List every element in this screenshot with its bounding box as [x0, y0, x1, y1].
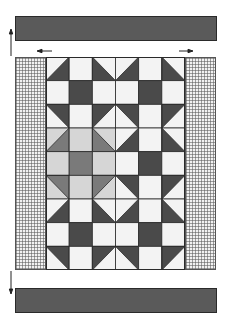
quilt-cell — [69, 152, 92, 176]
quilt-cell — [139, 57, 162, 81]
quilt-cell — [92, 57, 115, 81]
quilt-cell — [92, 104, 115, 128]
left-checkered-border — [15, 57, 46, 270]
quilt-cell — [46, 152, 69, 176]
quilt-cell — [139, 246, 162, 270]
quilt-cell — [69, 128, 92, 152]
up-arrow-icon — [9, 29, 12, 56]
quilt-cell — [162, 128, 185, 152]
quilt-cell — [139, 223, 162, 247]
quilt-cell — [162, 246, 185, 270]
quilt-cell — [92, 223, 115, 247]
quilt-cell — [92, 152, 115, 176]
quilt-cell — [46, 175, 69, 199]
quilt-cell — [92, 246, 115, 270]
quilt-cell — [69, 104, 92, 128]
quilt-cell — [69, 81, 92, 105]
quilt-cell — [162, 223, 185, 247]
quilt-cell — [116, 223, 139, 247]
quilt-cell — [162, 81, 185, 105]
quilt-cell — [92, 81, 115, 105]
quilt-cell — [46, 81, 69, 105]
top-border-band — [15, 16, 217, 41]
down-arrow-icon — [9, 271, 12, 294]
quilt-cell — [69, 223, 92, 247]
quilt-cell — [139, 175, 162, 199]
quilt-cell — [46, 57, 69, 81]
quilt-cell — [162, 152, 185, 176]
quilt-cell — [116, 175, 139, 199]
quilt-cell — [46, 246, 69, 270]
right-checkered-border — [185, 57, 216, 270]
quilt-cell — [116, 81, 139, 105]
left-arrow-icon — [37, 49, 52, 52]
quilt-cell — [46, 104, 69, 128]
bottom-border-band — [15, 288, 217, 313]
quilt-cell — [139, 104, 162, 128]
quilt-cell — [69, 199, 92, 223]
quilt-cell — [116, 57, 139, 81]
quilt-cell — [69, 246, 92, 270]
quilt-cell — [69, 57, 92, 81]
quilt-cell — [92, 175, 115, 199]
quilt-cell — [92, 128, 115, 152]
quilt-cell — [92, 199, 115, 223]
quilt-cell — [139, 81, 162, 105]
quilt-center — [15, 57, 217, 270]
quilt-cell — [139, 152, 162, 176]
quilt-cell — [69, 175, 92, 199]
quilt-cell — [162, 175, 185, 199]
quilt-cell — [46, 223, 69, 247]
quilt-cell — [46, 199, 69, 223]
quilt-cell — [116, 128, 139, 152]
quilt-cell — [116, 246, 139, 270]
quilt-cell — [116, 104, 139, 128]
quilt-cell — [162, 57, 185, 81]
quilt-block-grid — [46, 57, 185, 270]
quilt-cell — [139, 128, 162, 152]
quilt-cell — [139, 199, 162, 223]
quilt-cell — [116, 152, 139, 176]
quilt-cell — [46, 128, 69, 152]
right-arrow-icon — [179, 49, 193, 52]
quilt-cell — [162, 199, 185, 223]
quilt-cell — [116, 199, 139, 223]
quilt-cell — [162, 104, 185, 128]
